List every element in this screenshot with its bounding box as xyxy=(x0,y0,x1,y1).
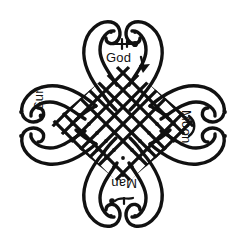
label-sun: Sun xyxy=(32,86,45,110)
lattice-dots-group xyxy=(70,71,176,177)
label-man: Man xyxy=(111,177,137,190)
tip-dot-left-bottom xyxy=(19,134,23,138)
man-squiggle-icon xyxy=(115,198,133,204)
tip-dot-bottom-right xyxy=(133,214,137,218)
man-squiggle-bead-icon xyxy=(109,198,115,204)
kolam-figure: God Sun Moon Man xyxy=(0,0,246,241)
sun-dot-icon xyxy=(39,114,44,119)
tip-dot-top-right xyxy=(133,30,137,34)
tip-dot-right-bottom xyxy=(223,134,227,138)
label-god: God xyxy=(106,51,131,64)
label-moon: Moon xyxy=(180,110,193,143)
tip-dot-bottom-left xyxy=(109,214,113,218)
kolam-drawing xyxy=(0,0,246,241)
tip-dot-top-left xyxy=(109,30,113,34)
tip-dot-left-top xyxy=(19,110,23,114)
tip-dot-right-top xyxy=(223,110,227,114)
key-pin-bead-icon xyxy=(132,41,138,47)
